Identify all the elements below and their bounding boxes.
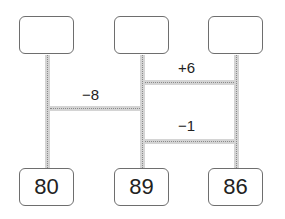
top-box-2[interactable] — [114, 16, 169, 54]
vertical-line-2 — [140, 55, 145, 168]
ladder-diagram: +6 −8 −1 80 89 86 — [0, 0, 285, 219]
rung-plus-6 — [145, 80, 234, 85]
rung-minus-1 — [145, 139, 234, 144]
top-box-1[interactable] — [19, 16, 74, 54]
rung-minus-8 — [50, 106, 140, 111]
rung-label-plus-6: +6 — [178, 59, 195, 76]
bottom-box-3: 86 — [208, 168, 263, 206]
bottom-box-1: 80 — [19, 168, 74, 206]
bottom-box-2: 89 — [114, 168, 169, 206]
vertical-line-1 — [45, 55, 50, 168]
vertical-line-3 — [234, 55, 239, 168]
rung-label-minus-8: −8 — [82, 86, 99, 103]
top-box-3[interactable] — [208, 16, 263, 54]
rung-label-minus-1: −1 — [178, 117, 195, 134]
